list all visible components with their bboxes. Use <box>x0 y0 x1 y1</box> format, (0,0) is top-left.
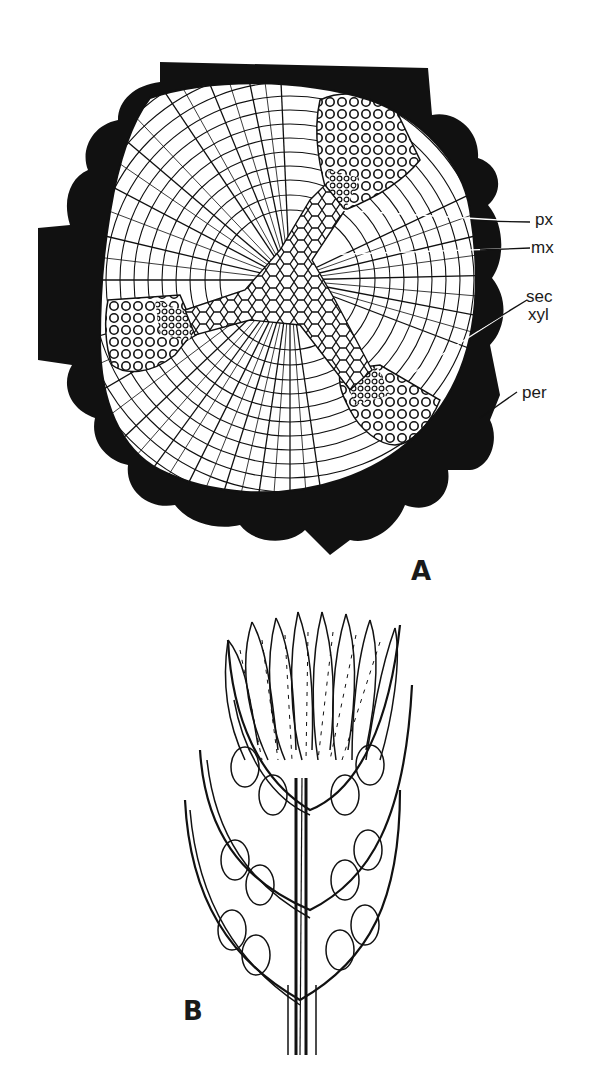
label-per: per <box>522 384 547 402</box>
panel-a-stem-cross-section <box>0 0 596 1070</box>
label-sec: sec <box>526 288 552 306</box>
label-xyl: xyl <box>528 306 549 324</box>
panel-label-a: A <box>411 556 431 586</box>
panel-label-b: B <box>183 996 203 1026</box>
panel-b-cone-section <box>185 612 412 1055</box>
label-mx: mx <box>531 239 554 257</box>
label-px: px <box>535 211 553 229</box>
